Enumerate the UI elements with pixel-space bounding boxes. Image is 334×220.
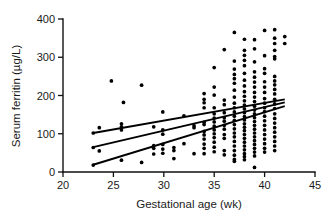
data-point <box>222 149 226 153</box>
x-tick-label: 45 <box>309 179 321 191</box>
data-point <box>243 71 247 75</box>
data-point <box>212 145 216 149</box>
chart-canvas: 0100200300400 202530354045 Gestational a… <box>0 0 334 220</box>
data-point <box>253 38 257 42</box>
data-point <box>202 97 206 101</box>
data-point <box>263 29 267 33</box>
data-point <box>273 126 277 130</box>
data-point <box>202 123 206 127</box>
data-point <box>243 90 247 94</box>
data-point <box>273 130 277 134</box>
data-point <box>253 100 257 104</box>
x-axis-title: Gestational age (wk) <box>136 198 242 210</box>
y-axis-title: Serum ferritin (µg/L) <box>10 45 22 148</box>
x-axis-ticks: 202530354045 <box>57 172 321 191</box>
data-point <box>273 149 277 153</box>
data-point <box>283 35 287 39</box>
data-point <box>263 137 267 141</box>
data-point <box>122 101 126 105</box>
data-point <box>253 47 257 51</box>
data-point <box>222 103 226 107</box>
data-point <box>140 83 144 87</box>
data-point <box>233 135 237 139</box>
data-point <box>212 93 216 97</box>
data-point <box>283 42 287 46</box>
data-point <box>120 158 124 162</box>
data-point <box>233 67 237 71</box>
data-point <box>233 159 237 163</box>
x-tick-label: 35 <box>208 179 220 191</box>
data-point <box>233 140 237 144</box>
data-point <box>233 123 237 127</box>
data-point <box>253 70 257 74</box>
data-point <box>243 64 247 68</box>
data-point <box>263 91 267 95</box>
data-point <box>263 97 267 101</box>
data-point <box>273 88 277 92</box>
data-point <box>273 92 277 96</box>
data-point <box>233 144 237 148</box>
data-point <box>243 94 247 98</box>
data-point <box>273 83 277 87</box>
data-point <box>212 136 216 140</box>
data-point <box>253 120 257 124</box>
data-point <box>182 142 186 146</box>
data-point <box>243 49 247 53</box>
data-point <box>202 133 206 137</box>
scatter-plot-figure: 0100200300400 202530354045 Gestational a… <box>0 0 334 220</box>
data-point <box>253 139 257 143</box>
data-point <box>263 150 267 154</box>
data-point <box>253 131 257 135</box>
data-point <box>243 53 247 57</box>
y-tick-label: 400 <box>37 13 55 25</box>
data-point <box>243 37 247 41</box>
data-point <box>273 28 277 32</box>
data-point <box>273 79 277 83</box>
data-point <box>212 120 216 124</box>
data-point <box>243 58 247 62</box>
data-point <box>243 78 247 82</box>
data-point <box>253 85 257 89</box>
y-tick-label: 100 <box>37 128 55 140</box>
data-point <box>253 91 257 95</box>
data-point <box>253 95 257 99</box>
data-point <box>273 135 277 139</box>
data-point <box>263 54 267 58</box>
data-point <box>243 133 247 137</box>
data-point <box>222 136 226 140</box>
data-point <box>222 153 226 157</box>
data-point <box>263 133 267 137</box>
data-point <box>243 140 247 144</box>
data-point <box>253 127 257 131</box>
x-tick-label: 20 <box>57 179 69 191</box>
data-point <box>233 73 237 77</box>
data-point <box>212 132 216 136</box>
data-point <box>110 79 114 83</box>
data-point <box>263 80 267 84</box>
scatter-point-group <box>91 28 286 169</box>
data-point <box>273 121 277 125</box>
data-point <box>243 129 247 133</box>
data-point <box>233 31 237 35</box>
data-point <box>212 85 216 89</box>
y-tick-label: 200 <box>37 90 55 102</box>
data-point <box>263 119 267 123</box>
data-point <box>263 142 267 146</box>
data-point <box>253 150 257 154</box>
data-point <box>202 146 206 150</box>
data-point <box>243 144 247 148</box>
data-point <box>233 127 237 131</box>
data-point <box>253 154 257 158</box>
data-point <box>263 123 267 127</box>
data-point <box>243 84 247 88</box>
data-point <box>273 75 277 79</box>
data-point <box>202 137 206 141</box>
data-point <box>222 111 226 115</box>
data-point <box>253 146 257 150</box>
data-point <box>273 36 277 40</box>
data-point <box>97 149 101 153</box>
data-point <box>212 106 216 110</box>
data-point <box>263 146 267 150</box>
plot-axes <box>63 19 315 172</box>
data-point <box>161 110 165 114</box>
